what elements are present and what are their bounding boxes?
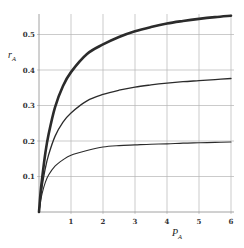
- x-tick-label: 6: [229, 217, 234, 226]
- x-axis-label-main: P: [171, 227, 178, 238]
- tick-labels: 1234560.10.20.30.40.5: [23, 30, 234, 226]
- x-tick-label: 4: [165, 217, 170, 226]
- x-tick-label: 1: [69, 217, 74, 226]
- y-tick-label: 0.5: [23, 30, 35, 39]
- y-tick-label: 0.3: [23, 101, 35, 110]
- x-tick-label: 2: [101, 217, 106, 226]
- y-tick-label: 0.1: [23, 172, 35, 181]
- y-tick-label: 0.2: [23, 137, 35, 146]
- x-axis-label-sub: A: [177, 233, 182, 240]
- axes: [39, 14, 234, 212]
- x-tick-label: 5: [197, 217, 202, 226]
- y-tick-label: 0.4: [23, 66, 35, 75]
- y-axis-label-sub: A: [11, 55, 16, 62]
- chart-canvas: 1234560.10.20.30.40.5 rA PA: [0, 0, 244, 248]
- x-tick-label: 3: [133, 217, 138, 226]
- grid-lines: [37, 14, 234, 214]
- y-axis-label: rA: [8, 49, 16, 62]
- x-axis-label: PA: [171, 227, 182, 240]
